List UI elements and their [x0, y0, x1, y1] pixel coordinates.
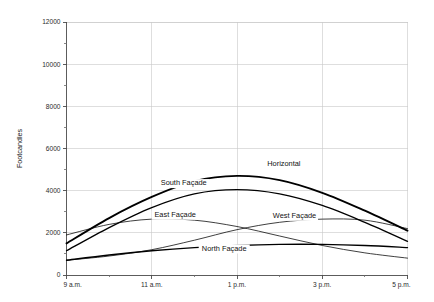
x-tick-label: 5 p.m. — [392, 281, 410, 289]
y-axis-title-text: Footcandles — [15, 129, 24, 169]
series-label: Horizontal — [267, 159, 301, 168]
y-tick-label: 2000 — [46, 229, 61, 236]
y-axis-title: Footcandles — [15, 129, 24, 169]
gridlines — [67, 22, 408, 275]
x-tick-label: 9 a.m. — [64, 281, 82, 288]
y-axis-tick-labels: 020004000600080001000012000 — [42, 18, 61, 278]
x-tick-label: 11 a.m. — [141, 281, 163, 288]
y-tick-label: 4000 — [46, 187, 61, 194]
y-tick-label: 10000 — [42, 61, 61, 68]
series-label: North Façade — [202, 244, 247, 253]
series-label: East Façade — [154, 210, 196, 219]
y-tick-label: 8000 — [46, 103, 61, 110]
chart-canvas: 020004000600080001000012000 9 a.m.11 a.m… — [0, 0, 434, 302]
x-tick-label: 3 p.m. — [313, 281, 331, 289]
y-tick-label: 6000 — [46, 145, 61, 152]
x-tick-label: 1 p.m. — [228, 281, 246, 289]
series-label: West Façade — [273, 211, 316, 220]
footcandles-line-chart: 020004000600080001000012000 9 a.m.11 a.m… — [0, 0, 434, 302]
x-axis-tick-labels: 9 a.m.11 a.m.1 p.m.3 p.m.5 p.m. — [64, 281, 411, 289]
series-label: South Façade — [161, 178, 207, 187]
y-tick-label: 12000 — [42, 18, 61, 25]
tick-marks — [63, 22, 408, 279]
y-tick-label: 0 — [57, 271, 61, 278]
